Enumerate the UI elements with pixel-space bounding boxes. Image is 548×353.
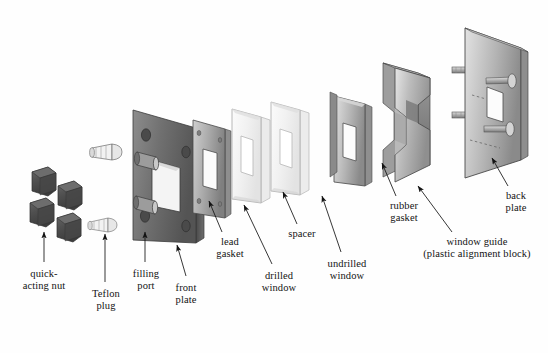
exploded-assembly-figure: quick- acting nut Teflon plug filling po… [0,0,548,353]
part-spacer [271,102,309,195]
teflon-plug [90,144,122,160]
part-teflon-plug-group [88,144,122,232]
quick-acting-nut [57,213,81,242]
label-teflon-plug: Teflon plug [80,288,132,311]
leader-undrilled-window [322,196,341,252]
quick-acting-nut [30,198,54,227]
label-spacer: spacer [280,228,324,240]
label-rubber-gasket: rubber gasket [378,200,430,223]
label-quick-acting-nut: quick- acting nut [6,268,82,291]
part-drilled-window [232,109,270,203]
part-undrilled-window [334,96,372,186]
part-lead-gasket [193,120,231,218]
label-drilled-window: drilled window [252,270,306,293]
part-window-guide [383,63,430,182]
label-front-plate: front plate [162,282,210,305]
label-window-guide: window guide (plastic alignment block) [410,236,544,259]
quick-acting-nut [58,181,82,210]
leader-front-plate [177,245,186,276]
leader-spacer [283,192,297,224]
label-back-plate: back plate [496,190,536,213]
teflon-plug [88,218,117,232]
label-undrilled-window: undrilled window [316,258,378,281]
quick-acting-nut [32,167,56,196]
part-quick-acting-nut-group [30,167,82,242]
label-lead-gasket: lead gasket [206,236,254,259]
part-back-plate [452,28,528,178]
